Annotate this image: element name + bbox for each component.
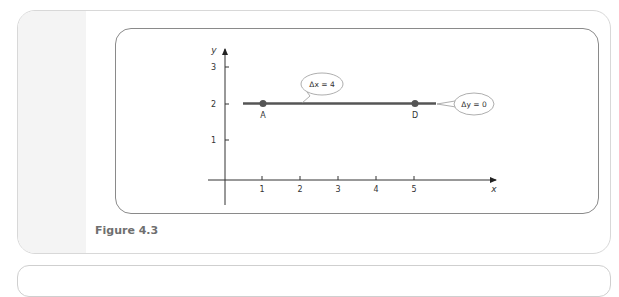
point-a — [260, 100, 267, 107]
x-ticks: 1 2 3 4 5 — [259, 176, 416, 194]
point-d — [412, 100, 419, 107]
callout-delta-y-text: Δy = 0 — [461, 100, 487, 109]
callout-delta-y: Δy = 0 — [437, 93, 494, 115]
x-tick-label: 2 — [297, 185, 302, 194]
y-axis-label: y — [210, 45, 217, 55]
callout-delta-x-text: Δx = 4 — [309, 80, 335, 89]
x-axis-label: x — [490, 184, 497, 194]
x-tick-label: 3 — [335, 185, 340, 194]
y-tick-label: 1 — [211, 136, 216, 145]
y-ticks: 3 2 1 — [211, 63, 229, 145]
x-tick-label: 4 — [373, 185, 378, 194]
y-tick-label: 2 — [211, 100, 216, 109]
point-d-label: D — [412, 111, 418, 120]
point-a-label: A — [260, 111, 266, 120]
x-tick-label: 5 — [411, 185, 416, 194]
callout-delta-x: Δx = 4 — [301, 73, 343, 103]
x-tick-label: 1 — [259, 185, 264, 194]
y-tick-label: 3 — [211, 63, 216, 72]
